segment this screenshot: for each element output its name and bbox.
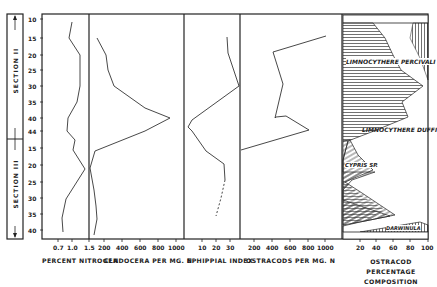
legend-cypris: CYPRIS SP. [345,162,378,168]
depth-tick: 25 [28,67,36,74]
depth-tick: 15 [28,145,36,152]
x-tick: 40 [372,244,380,251]
legend-darwinula: DARWINULA [386,225,421,231]
xlabel-cladocera: CLADOCERA PER MG. N [104,257,192,264]
depth-tick: 30 [28,195,36,202]
x-tick: 1000 [317,244,334,251]
x-tick: 1000 [168,244,185,251]
depth-tick: 35 [28,211,36,218]
depth-tick: 15 [28,35,36,42]
ephippial-line [188,37,239,180]
x-tick: 800 [152,244,165,251]
depth-tick: 20 [28,52,36,59]
x-tick: 1.0 [67,244,78,251]
x-tick: 600 [284,244,297,251]
x-tick: 1.5 [84,244,95,251]
x-tick: 400 [116,244,129,251]
depth-tick: 40 [28,227,36,234]
x-tick: 800 [302,244,315,251]
depth-tick: 30 [28,83,36,90]
legend-limnocythere-duffi: LIMNOCYTHERE DUFFI [362,126,437,133]
section-iii-label: SECTION III [12,169,19,209]
ephippial-line-dashed [216,180,225,216]
ostracods-line [241,36,326,150]
xlabel-ostracods: OSTRACODS PER MG. N [246,257,335,264]
x-tick: 60 [389,244,397,251]
xlabel-composition: OSTRACOD PERCENTAGE COMPOSITION [346,257,436,287]
x-tick: 200 [248,244,261,251]
depth-tick: 35 [28,99,36,106]
x-tick: 20 [212,244,220,251]
cladocera-line [90,38,170,235]
x-tick: 400 [266,244,279,251]
section-ii-label: SECTION II [12,54,19,94]
depth-tick: 25 [28,179,36,186]
xlabel-ephippial: EPHIPPIAL INDEX [187,257,253,264]
depth-tick: 44 [28,128,36,135]
depth-tick: 20 [28,162,36,169]
legend-limnocythere-percivali: LIMNOCYTHERE PERCIVALI [346,58,436,65]
x-tick: 200 [98,244,111,251]
depth-tick: 40 [28,115,36,122]
x-tick: 30 [226,244,234,251]
x-tick: 80 [406,244,414,251]
x-tick: 20 [356,244,364,251]
nitrogen-line [62,22,85,232]
x-tick: 600 [134,244,147,251]
x-tick: 100 [421,244,434,251]
x-tick: 0.7 [53,244,64,251]
depth-tick: 10 [28,16,36,23]
x-tick: 10 [198,244,206,251]
